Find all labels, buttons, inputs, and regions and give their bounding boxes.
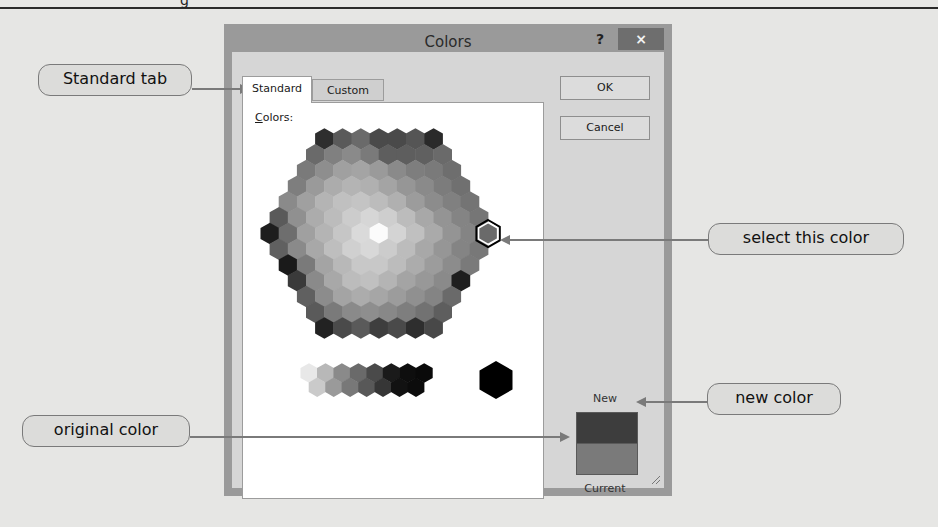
new-color-swatch <box>576 412 638 444</box>
callout-standard-tab: Standard tab <box>38 64 192 96</box>
tab-standard[interactable]: Standard <box>242 76 312 103</box>
arrow-select-this-color-icon <box>500 235 510 245</box>
tab-custom[interactable]: Custom <box>312 79 384 101</box>
callout-line-new-color <box>644 401 707 403</box>
callout-line-select-this-color <box>508 239 708 241</box>
arrow-original-color-icon <box>560 432 570 442</box>
standard-panel: Colors: <box>242 102 544 499</box>
help-button[interactable]: ? <box>588 28 612 50</box>
callout-new-color: new color <box>707 383 841 415</box>
black-swatch[interactable] <box>480 361 513 399</box>
callout-original-color: original color <box>22 415 190 447</box>
current-label: Current <box>562 482 648 495</box>
color-hexagon-palette[interactable] <box>243 103 545 500</box>
heading-fragment: g <box>180 0 189 8</box>
close-button[interactable]: × <box>618 28 664 50</box>
current-color-swatch <box>576 443 638 475</box>
ok-button[interactable]: OK <box>560 76 650 100</box>
callout-line-original-color <box>190 436 562 438</box>
callout-select-this-color: select this color <box>708 223 904 255</box>
colors-dialog: Colors ? × Standard Custom Colors: OK Ca… <box>224 24 672 496</box>
cancel-button[interactable]: Cancel <box>560 116 650 140</box>
callout-line-standard-tab <box>192 88 242 90</box>
resize-grip-icon[interactable] <box>650 474 660 484</box>
arrow-new-color-icon <box>636 397 646 407</box>
dialog-client: Standard Custom Colors: OK Cancel New Cu… <box>232 52 664 488</box>
top-rule <box>0 7 938 9</box>
